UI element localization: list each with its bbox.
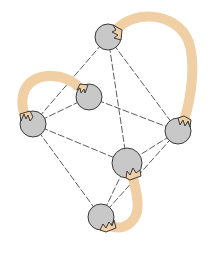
node-left[interactable] [20, 111, 46, 137]
graph-diagram [0, 0, 211, 257]
edge-top-center [108, 37, 127, 163]
nodes [20, 24, 191, 232]
node-bottom[interactable] [88, 204, 116, 232]
edge-top-right [108, 37, 178, 131]
node-top[interactable] [95, 24, 122, 50]
band-top-right [117, 17, 192, 121]
edge-midleft-right [89, 97, 178, 131]
node-mid-left[interactable] [76, 84, 102, 110]
node-right[interactable] [165, 116, 191, 144]
node-center[interactable] [112, 148, 142, 180]
edges [33, 37, 178, 217]
